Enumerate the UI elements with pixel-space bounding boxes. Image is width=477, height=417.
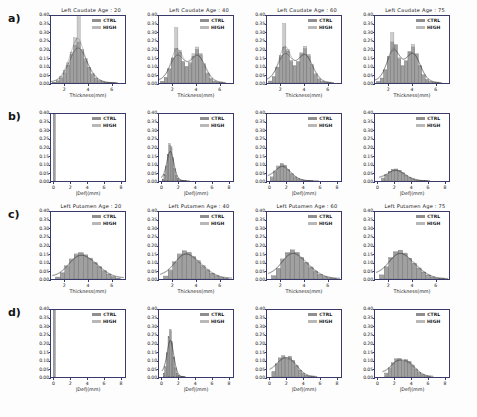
x-tick-mark bbox=[280, 280, 281, 282]
x-tick-mark bbox=[428, 182, 429, 184]
y-tick-label: 0.15 bbox=[351, 154, 373, 159]
x-tick-label: 4 bbox=[189, 381, 201, 386]
y-tick-label: 0.30 bbox=[243, 324, 265, 329]
legend-item-ctrl: CTRL bbox=[416, 18, 440, 23]
y-tick-label: 0.05 bbox=[135, 269, 157, 274]
y-tick-label: 0.20 bbox=[135, 341, 157, 346]
chart-panel-b4: 0.000.050.100.150.200.250.300.350.400246… bbox=[350, 104, 458, 201]
y-tick-label: 0.10 bbox=[135, 358, 157, 363]
y-tick-label: 0.15 bbox=[351, 56, 373, 61]
y-tick-label: 0.25 bbox=[351, 332, 373, 337]
y-tick-label: 0.15 bbox=[27, 252, 49, 257]
y-axis-ticks: 0.000.050.100.150.200.250.300.350.40 bbox=[350, 211, 373, 280]
y-tick-label: 0.15 bbox=[351, 252, 373, 257]
y-axis-ticks: 0.000.050.100.150.200.250.300.350.40 bbox=[134, 15, 157, 84]
legend-item-high: HIGH bbox=[416, 123, 440, 128]
y-tick-label: 0.20 bbox=[27, 243, 49, 248]
x-tick-label: 4 bbox=[81, 185, 93, 190]
panel-title: Left Putamen Age : 75 bbox=[372, 203, 458, 209]
y-tick-label: 0.40 bbox=[27, 306, 49, 311]
y-tick-label: 0.30 bbox=[27, 226, 49, 231]
legend-label: CTRL bbox=[319, 116, 332, 121]
x-tick-mark bbox=[87, 182, 88, 184]
y-tick-label: 0.10 bbox=[351, 358, 373, 363]
histogram-bars-ctrl bbox=[53, 114, 55, 181]
x-tick-mark bbox=[388, 280, 389, 282]
x-tick-mark bbox=[212, 378, 213, 380]
y-tick-label: 0.10 bbox=[135, 260, 157, 265]
legend-swatch-icon bbox=[416, 222, 425, 226]
legend: CTRLHIGH bbox=[200, 312, 224, 324]
x-tick-label: 6 bbox=[206, 185, 218, 190]
y-tick-label: 0.35 bbox=[351, 21, 373, 26]
x-tick-label: 4 bbox=[298, 283, 310, 288]
legend-swatch-icon bbox=[200, 19, 209, 23]
x-axis-ticks: 246 bbox=[50, 84, 126, 93]
chart-panel-c2: Left Putamen Age : 400.000.050.100.150.2… bbox=[134, 202, 242, 299]
y-tick-label: 0.20 bbox=[135, 47, 157, 52]
y-tick-label: 0.30 bbox=[27, 324, 49, 329]
y-tick-label: 0.05 bbox=[27, 269, 49, 274]
x-tick-label: 2 bbox=[58, 87, 70, 92]
y-tick-label: 0.20 bbox=[135, 145, 157, 150]
legend-item-ctrl: CTRL bbox=[92, 116, 116, 121]
x-tick-mark bbox=[445, 182, 446, 184]
x-tick-mark bbox=[229, 182, 230, 184]
y-tick-label: 0.05 bbox=[135, 73, 157, 78]
x-tick-mark bbox=[172, 84, 173, 86]
y-tick-label: 0.35 bbox=[27, 315, 49, 320]
y-tick-label: 0.20 bbox=[243, 341, 265, 346]
legend-swatch-icon bbox=[308, 222, 317, 226]
x-tick-label: 0 bbox=[47, 381, 59, 386]
x-tick-mark bbox=[411, 378, 412, 380]
chart-panel-c4: Left Putamen Age : 750.000.050.100.150.2… bbox=[350, 202, 458, 299]
y-tick-label: 0.35 bbox=[243, 119, 265, 124]
legend-item-ctrl: CTRL bbox=[416, 116, 440, 121]
x-tick-mark bbox=[64, 280, 65, 282]
chart-panel-a2: Left Caudate Age : 400.000.050.100.150.2… bbox=[134, 6, 242, 103]
y-tick-label: 0.30 bbox=[243, 128, 265, 133]
x-tick-mark bbox=[196, 84, 197, 86]
x-tick-mark bbox=[121, 182, 122, 184]
y-tick-label: 0.30 bbox=[243, 226, 265, 231]
y-tick-label: 0.10 bbox=[243, 260, 265, 265]
legend-swatch-icon bbox=[308, 320, 317, 324]
legend-swatch-icon bbox=[308, 313, 317, 317]
y-tick-label: 0.25 bbox=[351, 136, 373, 141]
chart-panel-c1: Left Putamen Age : 200.000.050.100.150.2… bbox=[26, 202, 134, 299]
legend-swatch-icon bbox=[200, 222, 209, 226]
x-tick-label: 6 bbox=[206, 381, 218, 386]
x-axis-ticks: 02468 bbox=[266, 378, 342, 387]
x-tick-label: 2 bbox=[166, 283, 178, 288]
x-tick-mark bbox=[70, 378, 71, 380]
x-tick-mark bbox=[320, 182, 321, 184]
y-tick-label: 0.40 bbox=[27, 12, 49, 17]
chart-panel-d2: 0.000.050.100.150.200.250.300.350.400246… bbox=[134, 300, 242, 397]
legend-swatch-icon bbox=[416, 19, 425, 23]
y-tick-label: 0.20 bbox=[243, 145, 265, 150]
legend-label: HIGH bbox=[103, 319, 116, 324]
y-axis-ticks: 0.000.050.100.150.200.250.300.350.40 bbox=[26, 15, 49, 84]
y-tick-label: 0.40 bbox=[351, 306, 373, 311]
chart-panel-d4: 0.000.050.100.150.200.250.300.350.400246… bbox=[350, 300, 458, 397]
y-tick-label: 0.00 bbox=[135, 277, 157, 282]
legend-label: CTRL bbox=[427, 116, 440, 121]
y-tick-label: 0.00 bbox=[243, 277, 265, 282]
x-tick-label: 6 bbox=[430, 87, 442, 92]
legend-label: HIGH bbox=[211, 123, 224, 128]
x-tick-mark bbox=[229, 378, 230, 380]
panel-title: Left Putamen Age : 60 bbox=[264, 203, 350, 209]
legend-item-ctrl: CTRL bbox=[308, 116, 332, 121]
y-tick-label: 0.20 bbox=[27, 341, 49, 346]
y-tick-label: 0.00 bbox=[135, 375, 157, 380]
histogram-bars-ctrl bbox=[380, 251, 445, 279]
x-tick-mark bbox=[104, 182, 105, 184]
x-tick-label: 0 bbox=[263, 381, 275, 386]
y-tick-label: 0.25 bbox=[243, 234, 265, 239]
chart-panel-b3: 0.000.050.100.150.200.250.300.350.400246… bbox=[242, 104, 350, 201]
legend-label: CTRL bbox=[211, 312, 224, 317]
legend-label: CTRL bbox=[319, 214, 332, 219]
x-tick-label: 6 bbox=[314, 381, 326, 386]
x-tick-mark bbox=[196, 280, 197, 282]
x-tick-label: 6 bbox=[430, 283, 442, 288]
